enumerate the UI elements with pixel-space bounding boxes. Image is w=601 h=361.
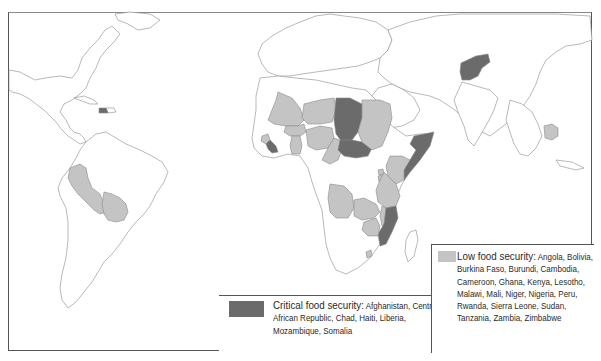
india: [454, 82, 498, 146]
cuba: [74, 96, 98, 104]
greenland: [115, 12, 160, 30]
burkina-faso: [284, 124, 306, 136]
low-legend-heading: Low food security:: [457, 250, 536, 262]
low-legend-countries: Angola, Bolivia, Burkina Faso, Burundi, …: [457, 252, 593, 323]
north-america: [9, 26, 120, 144]
madagascar: [405, 230, 418, 262]
southeast-asia: [506, 100, 542, 156]
europe: [258, 14, 392, 76]
indonesia-fragment: [556, 160, 584, 170]
cambodia: [544, 124, 558, 140]
critical-legend-text: Critical food security: Afghanistan, Cen…: [273, 299, 449, 337]
critical-swatch: [229, 301, 264, 317]
critical-legend-heading: Critical food security:: [273, 299, 364, 311]
legend-low: Low food security: Angola, Bolivia, Burk…: [431, 244, 594, 353]
low-legend-text: Low food security: Angola, Bolivia, Burk…: [457, 250, 593, 325]
low-swatch: [438, 251, 456, 262]
ghana: [290, 136, 302, 154]
